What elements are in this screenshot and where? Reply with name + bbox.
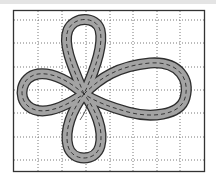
diagram-frame <box>14 11 205 172</box>
track-diagram <box>0 0 216 183</box>
